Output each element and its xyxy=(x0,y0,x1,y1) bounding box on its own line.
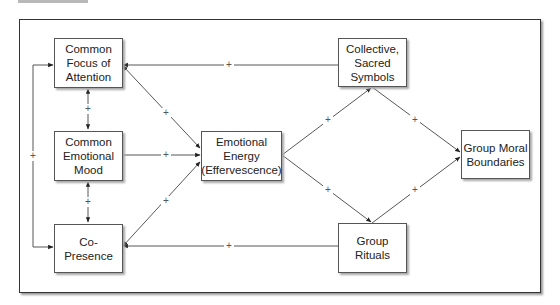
sign-energy-symbols: + xyxy=(323,115,333,125)
node-label: Group Moral Boundaries xyxy=(464,141,528,169)
sign-rituals-copresence: + xyxy=(224,241,234,251)
node-co-presence: Co- Presence xyxy=(54,224,123,273)
sign-mood-copresence: + xyxy=(83,197,93,207)
sign-focus-mood: + xyxy=(83,104,93,114)
sign-focus-energy: + xyxy=(161,108,171,118)
edge-focus-energy xyxy=(123,66,200,148)
sign-rituals-boundaries: + xyxy=(410,185,420,195)
node-label: Common Focus of Attention xyxy=(65,42,112,84)
node-group-rituals: Group Rituals xyxy=(338,223,407,273)
node-label: Common Emotional Mood xyxy=(63,135,114,177)
node-emotional-energy: Emotional Energy (Effervescence) xyxy=(201,131,282,181)
node-collective-sacred-symbols: Collective, Sacred Symbols xyxy=(338,38,407,87)
sign-copresence-energy: + xyxy=(161,196,171,206)
sign-symbols-focus: + xyxy=(224,60,234,70)
sign-mood-energy: + xyxy=(161,150,171,160)
node-common-focus-of-attention: Common Focus of Attention xyxy=(54,38,123,88)
sign-bracket: + xyxy=(28,151,38,161)
node-label: Collective, Sacred Symbols xyxy=(346,42,399,84)
node-common-emotional-mood: Common Emotional Mood xyxy=(54,131,123,181)
node-label: Co- Presence xyxy=(64,235,113,263)
sign-symbols-boundaries: + xyxy=(410,115,420,125)
sign-energy-rituals: + xyxy=(323,185,333,195)
node-group-moral-boundaries: Group Moral Boundaries xyxy=(461,130,530,179)
node-label: Emotional Energy (Effervescence) xyxy=(201,135,281,177)
node-label: Group Rituals xyxy=(355,234,390,262)
